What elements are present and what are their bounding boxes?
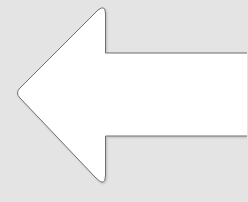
arrow-left-icon[interactable]	[0, 0, 247, 202]
back-arrow-canvas	[0, 0, 247, 202]
arrow-shape	[18, 8, 248, 183]
